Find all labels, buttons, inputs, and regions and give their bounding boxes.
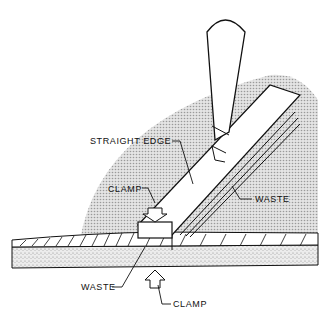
clamp-block: [138, 222, 172, 238]
label-waste-bottom: WASTE: [81, 282, 116, 292]
label-clamp-bottom: CLAMP: [173, 299, 207, 309]
diagram-canvas: STRAIGHT EDGE CLAMP WASTE WASTE CLAMP: [0, 0, 325, 316]
label-straight-edge: STRAIGHT EDGE: [90, 136, 171, 146]
substrate-layer: [12, 245, 318, 268]
label-clamp-top: CLAMP: [108, 184, 142, 194]
diagram-illustration: [0, 0, 325, 316]
label-waste-right: WASTE: [255, 194, 290, 204]
clamp-arrow-up: [145, 270, 165, 288]
